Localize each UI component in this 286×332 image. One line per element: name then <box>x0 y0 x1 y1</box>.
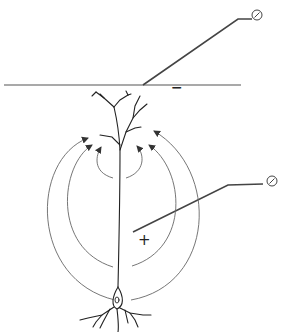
depth-electrode <box>133 176 277 232</box>
field-loop-inner-right <box>126 146 142 178</box>
positive-polarity-label: + <box>138 233 151 248</box>
negative-polarity-label: − <box>171 80 183 94</box>
pyramidal-neuron <box>80 91 151 332</box>
neuron-field-diagram <box>0 0 286 332</box>
field-loop-middle-left <box>67 145 113 267</box>
surface-electrode <box>143 10 262 85</box>
field-loop-outer-left <box>47 138 115 300</box>
field-lines-right <box>126 131 199 300</box>
gauge-icon <box>252 10 262 20</box>
field-loop-inner-left <box>97 147 113 178</box>
field-lines-left <box>47 138 115 300</box>
soma <box>113 287 122 309</box>
gauge-icon <box>267 176 277 186</box>
